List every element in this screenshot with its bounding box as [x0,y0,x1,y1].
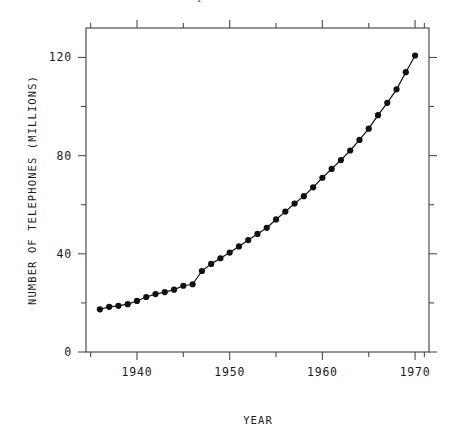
data-point [403,69,409,75]
data-point [97,306,103,312]
data-series-markers [97,52,418,312]
data-point [282,209,288,215]
x-axis-tick-labels: 1940195019601970 [122,365,431,379]
x-axis-ticks [91,20,425,360]
x-tick-label: 1960 [307,365,338,379]
y-tick-label: 120 [49,50,72,64]
y-tick-label: 0 [64,345,72,359]
y-axis-tick-labels: 04080120 [49,50,72,359]
data-point [106,304,112,310]
data-point [264,225,270,231]
y-axis-title: NUMBER OF TELEPHONES (MILLIONS) [26,75,38,305]
y-axis-ticks [78,57,437,352]
data-point [310,184,316,190]
data-point [227,249,233,255]
data-point [329,166,335,172]
data-point [319,175,325,181]
data-point [162,289,168,295]
x-axis-title: YEAR [243,414,273,426]
data-point [366,126,372,132]
data-point [273,216,279,222]
data-point [134,298,140,304]
data-point [375,112,381,118]
data-point [245,237,251,243]
data-series-line [100,55,415,309]
data-point [199,268,205,274]
data-point [236,243,242,249]
data-point [143,294,149,300]
data-point [338,157,344,163]
data-point [125,301,131,307]
x-tick-label: 1950 [214,365,245,379]
data-point [254,231,260,237]
data-point [412,52,418,58]
data-point [152,291,158,297]
data-point [301,193,307,199]
data-point [180,283,186,289]
data-point [356,137,362,143]
data-point [217,255,223,261]
data-point [393,86,399,92]
y-tick-label: 80 [57,149,72,163]
data-point [291,200,297,206]
x-tick-label: 1940 [122,365,153,379]
y-tick-label: 40 [57,247,72,261]
data-point [384,100,390,106]
x-tick-label: 1970 [400,365,431,379]
data-point [190,281,196,287]
data-point [171,287,177,293]
data-point [208,261,214,267]
data-point [115,303,121,309]
data-point [347,147,353,153]
telephone-growth-chart: 04080120 1940195019601970 NUMBER OF TELE… [0,0,460,438]
